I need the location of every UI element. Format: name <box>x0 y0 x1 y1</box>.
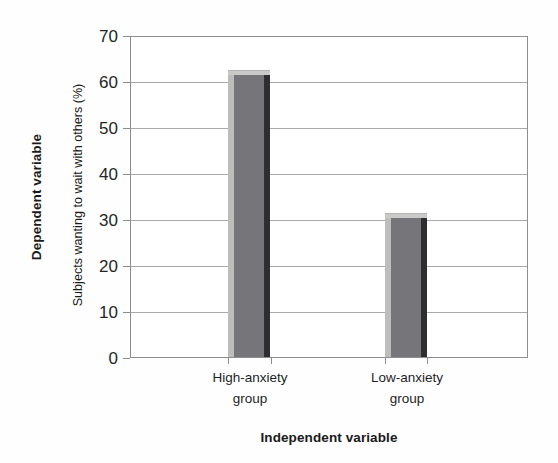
gridline-20 <box>131 266 527 267</box>
x-category-line: group <box>180 389 320 410</box>
y-tick-mark <box>123 82 130 83</box>
plot-area <box>130 36 528 358</box>
y-tick-label-text: 10 <box>99 303 118 323</box>
x-tick-mark <box>271 358 272 364</box>
bar-front-face <box>385 218 427 357</box>
y-tick-mark <box>123 36 130 37</box>
y-tick-label-text: 40 <box>99 165 118 185</box>
gridline-60 <box>131 82 527 83</box>
y-tick-label-text: 50 <box>99 119 118 139</box>
y-axis-title: Subjects wanting to wait with others (%) <box>58 25 98 365</box>
bar-chart-figure: Dependent variable Subjects wanting to w… <box>0 0 558 463</box>
x-tick-mark <box>427 358 428 364</box>
x-category-label-high-anxiety: High-anxiety group <box>180 368 320 409</box>
gridline-30 <box>131 220 527 221</box>
x-axis-title: Independent variable <box>130 430 528 445</box>
y-tick-mark <box>123 220 130 221</box>
x-category-line: Low-anxiety <box>337 368 477 389</box>
y-tick-mark <box>123 128 130 129</box>
x-tick-mark <box>228 358 229 364</box>
y-tick-mark <box>123 358 130 359</box>
y-tick-label-text: 0 <box>109 349 118 369</box>
y-tick-label-text: 30 <box>99 211 118 231</box>
y-tick-mark <box>123 312 130 313</box>
x-tick-mark <box>385 358 386 364</box>
gridline-50 <box>131 128 527 129</box>
x-category-line: High-anxiety <box>180 368 320 389</box>
y-axis-outer-title: Dependent variable <box>14 36 58 358</box>
gridline-10 <box>131 312 527 313</box>
y-tick-mark <box>123 266 130 267</box>
y-tick-mark <box>123 174 130 175</box>
x-category-label-low-anxiety: Low-anxiety group <box>337 368 477 409</box>
y-tick-label-text: 20 <box>99 257 118 277</box>
x-category-line: group <box>337 389 477 410</box>
bar-front-face <box>228 75 270 357</box>
y-tick-label-text: 70 <box>99 27 118 47</box>
y-tick-label-text: 60 <box>99 73 118 93</box>
bar-high-anxiety <box>228 70 270 357</box>
bar-low-anxiety <box>385 213 427 357</box>
gridline-40 <box>131 174 527 175</box>
